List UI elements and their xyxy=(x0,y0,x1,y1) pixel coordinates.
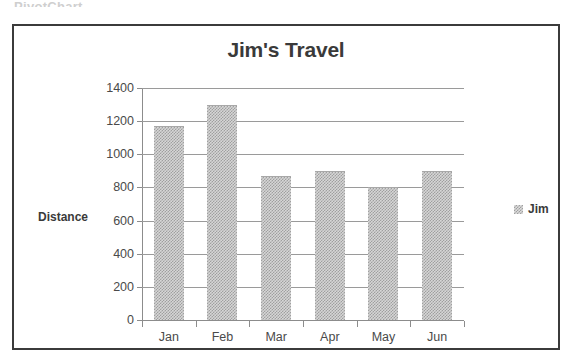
bar[interactable] xyxy=(154,126,184,320)
legend-swatch-icon xyxy=(514,205,523,214)
x-axis-tick xyxy=(357,321,358,327)
chart-frame: Jim's Travel Distance 140012001000800600… xyxy=(12,24,560,350)
x-axis-label: Apr xyxy=(320,330,339,344)
bar-slot xyxy=(303,88,357,320)
x-axis-label: Jun xyxy=(427,330,447,344)
bar[interactable] xyxy=(422,171,452,320)
bar[interactable] xyxy=(368,187,398,320)
y-axis-tick-label: 1200 xyxy=(106,114,134,128)
x-axis-label: Mar xyxy=(265,330,287,344)
bar[interactable] xyxy=(207,105,237,320)
plot-area: 1400120010008006004002000 JanFebMarAprMa… xyxy=(142,88,464,320)
legend-item-label: Jim xyxy=(528,202,549,216)
bar[interactable] xyxy=(315,171,345,320)
y-axis-tick-label: 800 xyxy=(113,180,134,194)
bar-slot xyxy=(142,88,196,320)
y-axis-tick-label: 1000 xyxy=(106,147,134,161)
y-axis-tick-label: 0 xyxy=(127,313,134,327)
bar-slot xyxy=(357,88,411,320)
clipped-top-text: PivotChart xyxy=(14,0,124,7)
y-axis-tick-label: 600 xyxy=(113,214,134,228)
y-axis-tick-label: 1400 xyxy=(106,81,134,95)
chart-legend: Jim xyxy=(514,202,549,216)
x-axis-tick xyxy=(249,321,250,327)
chart-title: Jim's Travel xyxy=(14,38,558,62)
bar-slot xyxy=(196,88,250,320)
x-axis-label: May xyxy=(372,330,396,344)
y-axis-title: Distance xyxy=(38,210,88,224)
bar-slot xyxy=(410,88,464,320)
x-axis-tick xyxy=(464,321,465,327)
x-axis-tick xyxy=(196,321,197,327)
x-axis-tick xyxy=(303,321,304,327)
y-axis-tick-label: 200 xyxy=(113,280,134,294)
bar[interactable] xyxy=(261,176,291,320)
x-axis-tick xyxy=(142,321,143,327)
x-axis-tick xyxy=(410,321,411,327)
x-axis-label: Feb xyxy=(212,330,234,344)
bar-slot xyxy=(249,88,303,320)
x-axis-label: Jan xyxy=(159,330,179,344)
y-axis-tick-label: 400 xyxy=(113,247,134,261)
